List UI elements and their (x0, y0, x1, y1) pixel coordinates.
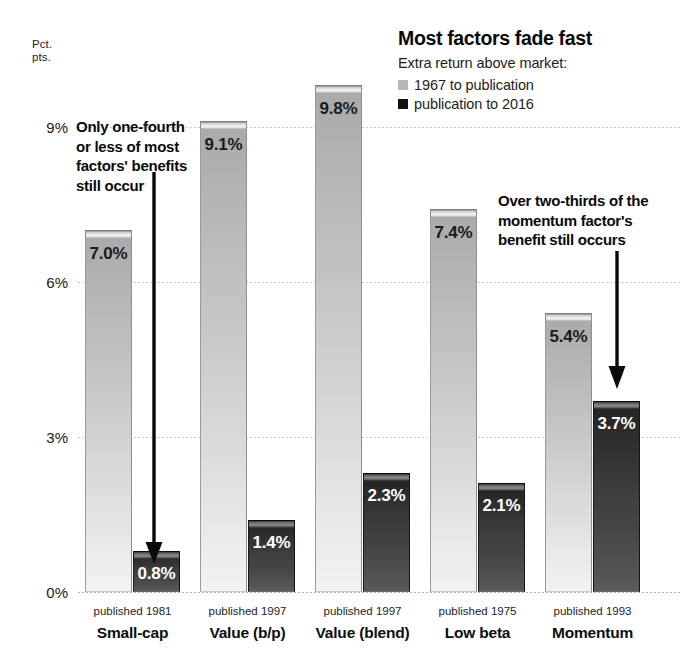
x-axis-category-name: Momentum (545, 623, 640, 643)
x-axis-category-name: Value (blend) (315, 623, 410, 643)
x-axis-publication-year: published 1997 (200, 604, 295, 618)
bar-body (430, 209, 477, 592)
legend-item[interactable]: 1967 to publication (398, 76, 683, 94)
title-block: Most factors fade fast Extra return abov… (398, 26, 683, 113)
bar-value-label: 7.0% (85, 244, 132, 264)
annotation-line: or less of most (76, 137, 236, 157)
bar-body (545, 313, 592, 592)
bar-group: 9.1%1.4% (200, 0, 295, 668)
legend-label: publication to 2016 (414, 95, 534, 113)
x-axis-publication-year: published 1993 (545, 604, 640, 618)
x-axis-publication-year: published 1975 (430, 604, 525, 618)
bar-value-label: 2.3% (363, 486, 410, 506)
bar-group: 9.8%2.3% (315, 0, 410, 668)
annotation-right: Over two-thirds of themomentum factor'sb… (498, 191, 688, 250)
x-axis-category-name: Value (b/p) (200, 623, 295, 643)
chart-title: Most factors fade fast (398, 26, 683, 50)
legend-label: 1967 to publication (414, 76, 534, 94)
bar-value-label: 9.8% (315, 99, 362, 119)
annotation-line: Over two-thirds of the (498, 191, 688, 211)
bar-top-cap (85, 230, 132, 238)
x-axis-group-value-b-p-: published 1997Value (b/p) (200, 604, 295, 643)
bar-body (315, 85, 362, 592)
bar-momentum-series2[interactable]: 3.7% (593, 401, 640, 592)
legend: 1967 to publicationpublication to 2016 (398, 76, 683, 113)
x-axis-group-small-cap: published 1981Small-cap (85, 604, 180, 643)
bar-top-cap (545, 313, 592, 321)
bar-top-cap (593, 401, 640, 409)
legend-item[interactable]: publication to 2016 (398, 95, 683, 113)
x-axis-category-name: Low beta (430, 623, 525, 643)
bar-low-beta-series1[interactable]: 7.4% (430, 209, 477, 592)
legend-swatch-light (398, 80, 408, 90)
bar-top-cap (363, 473, 410, 481)
x-axis-group-low-beta: published 1975Low beta (430, 604, 525, 643)
bar-small-cap-series1[interactable]: 7.0% (85, 230, 132, 592)
bar-value-blend--series2[interactable]: 2.3% (363, 473, 410, 592)
bar-value-label: 3.7% (593, 414, 640, 434)
x-axis-group-value-blend-: published 1997Value (blend) (315, 604, 410, 643)
bar-value-label: 1.4% (248, 533, 295, 553)
bar-value-blend--series1[interactable]: 9.8% (315, 85, 362, 592)
bar-value-label: 2.1% (478, 496, 525, 516)
annotation-line: benefit still occurs (498, 230, 688, 250)
bar-body (248, 520, 295, 592)
x-axis-group-momentum: published 1993Momentum (545, 604, 640, 643)
bar-value-label: 7.4% (430, 223, 477, 243)
bar-top-cap (478, 483, 525, 491)
chart-container: Pct. pts. 0%3%6%9% 7.0%0.8%9.1%1.4%9.8%2… (0, 0, 689, 668)
x-axis-category-name: Small-cap (85, 623, 180, 643)
chart-subtitle: Extra return above market: (398, 54, 683, 73)
bar-top-cap (248, 520, 295, 528)
bar-low-beta-series2[interactable]: 2.1% (478, 483, 525, 592)
bar-top-cap (430, 209, 477, 217)
down-arrow-icon-left (142, 172, 166, 572)
down-arrow-icon-right (605, 251, 629, 395)
bar-value-b-p--series2[interactable]: 1.4% (248, 520, 295, 592)
bar-body (85, 230, 132, 592)
bar-top-cap (315, 85, 362, 93)
annotation-line: Only one-fourth (76, 117, 236, 137)
x-axis-publication-year: published 1997 (315, 604, 410, 618)
annotation-line: momentum factor's (498, 211, 688, 231)
x-axis-publication-year: published 1981 (85, 604, 180, 618)
bar-momentum-series1[interactable]: 5.4% (545, 313, 592, 592)
bar-value-label: 5.4% (545, 327, 592, 347)
legend-swatch-dark (398, 99, 408, 109)
